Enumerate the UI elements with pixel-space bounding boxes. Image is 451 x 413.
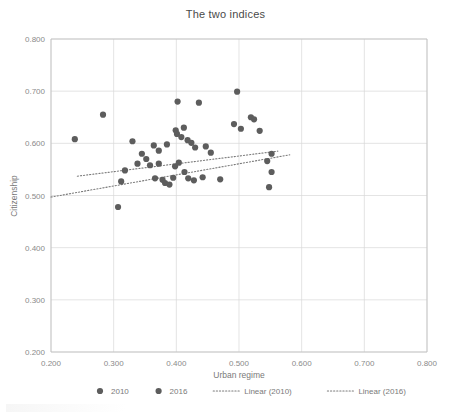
y-tick-label: 0.200 (25, 348, 46, 357)
data-point (192, 144, 198, 150)
x-tick-label: 0.700 (354, 359, 375, 368)
x-tick-label: 0.200 (41, 359, 62, 368)
data-point (234, 89, 240, 95)
data-point (181, 169, 187, 175)
y-axis-title: Citizenship (9, 175, 19, 217)
data-point (166, 181, 172, 187)
data-point (268, 151, 274, 157)
legend-label: Linear (2016) (358, 387, 406, 396)
data-point (231, 121, 237, 127)
y-tick-label: 0.400 (25, 244, 46, 253)
data-point (122, 167, 128, 173)
data-point (200, 174, 206, 180)
legend-label: 2010 (111, 387, 129, 396)
data-point (178, 134, 184, 140)
legend-marker-icon (97, 388, 103, 394)
trendlines (51, 151, 290, 197)
data-point (217, 176, 223, 182)
data-point (72, 136, 78, 142)
data-point (203, 143, 209, 149)
data-point (174, 99, 180, 105)
data-point (143, 156, 149, 162)
data-point (152, 175, 158, 181)
data-point (266, 184, 272, 190)
data-point (139, 151, 145, 157)
data-point (191, 177, 197, 183)
y-tick-label: 0.700 (25, 87, 46, 96)
data-point (147, 162, 153, 168)
data-point (257, 128, 263, 134)
data-point (170, 175, 176, 181)
data-point (251, 116, 257, 122)
legend-label: 2016 (170, 387, 188, 396)
x-tick-label: 0.400 (166, 359, 187, 368)
x-axis-tick-labels: 0.2000.3000.4000.5000.6000.7000.800 (41, 359, 438, 368)
x-tick-label: 0.800 (417, 359, 438, 368)
legend-marker-icon (156, 388, 162, 394)
data-point (185, 175, 191, 181)
y-tick-label: 0.500 (25, 192, 46, 201)
data-point (129, 138, 135, 144)
data-point (264, 158, 270, 164)
page-artifact (6, 404, 126, 412)
data-points (72, 89, 275, 210)
data-point (238, 126, 244, 132)
x-tick-label: 0.300 (104, 359, 125, 368)
y-tick-label: 0.800 (25, 35, 46, 44)
y-tick-label: 0.300 (25, 296, 46, 305)
chart-legend: 20102016Linear (2010)Linear (2016) (97, 387, 406, 396)
trendline (51, 155, 290, 197)
plot-canvas: 0.2000.3000.4000.5000.6000.7000.800 0.20… (0, 0, 451, 413)
x-tick-label: 0.600 (292, 359, 313, 368)
data-point (115, 204, 121, 210)
scatter-chart: The two indices 0.2000.3000.4000.5000.60… (0, 0, 451, 413)
data-point (118, 178, 124, 184)
data-point (164, 141, 170, 147)
legend-label: Linear (2010) (244, 387, 292, 396)
data-point (208, 150, 214, 156)
data-point (176, 160, 182, 166)
data-point (268, 169, 274, 175)
data-point (151, 142, 157, 148)
y-axis-tick-labels: 0.2000.3000.4000.5000.6000.7000.800 (25, 35, 46, 357)
data-point (156, 161, 162, 167)
data-point (181, 125, 187, 131)
data-point (196, 100, 202, 106)
x-axis-title: Urban regime (213, 370, 265, 380)
data-point (156, 148, 162, 154)
data-point (134, 161, 140, 167)
x-tick-label: 0.500 (229, 359, 250, 368)
data-point (100, 112, 106, 118)
y-tick-label: 0.600 (25, 139, 46, 148)
